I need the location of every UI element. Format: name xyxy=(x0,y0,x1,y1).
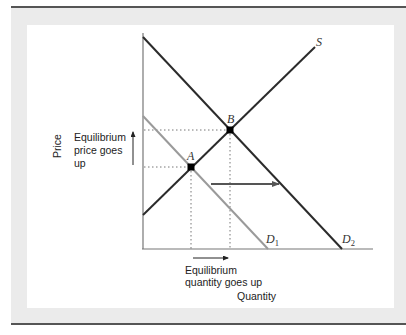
quantity-note-line2: quantity goes up xyxy=(185,276,262,288)
demand2-label: D2 xyxy=(341,232,355,248)
point-b-label: B xyxy=(227,112,235,126)
supply-demand-chart: S D1 D2 A B Price Quantity Equilibrium p… xyxy=(0,0,406,335)
demand-curve-d2 xyxy=(143,37,342,249)
point-a-label: A xyxy=(186,149,195,163)
price-note-line1: Equilibrium xyxy=(74,131,126,143)
price-note-line3: up xyxy=(74,157,86,169)
equilibrium-point-a xyxy=(188,164,195,171)
x-axis-label: Quantity xyxy=(237,290,277,302)
demand-curve-d1 xyxy=(143,116,268,249)
demand1-label: D1 xyxy=(265,232,279,248)
supply-label: S xyxy=(316,35,322,49)
quantity-note-line1: Equilibrium xyxy=(185,264,237,276)
equilibrium-point-b xyxy=(227,127,234,134)
price-note-line2: price goes xyxy=(74,144,122,156)
y-axis-label: Price xyxy=(51,134,63,158)
